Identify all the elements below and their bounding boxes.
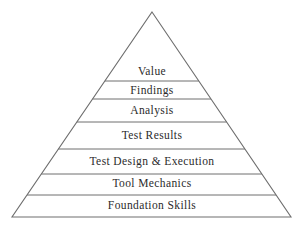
pyramid-outline-svg xyxy=(0,0,304,231)
triangle-outline xyxy=(12,12,291,217)
pyramid-diagram: Value Findings Analysis Test Results Tes… xyxy=(0,0,304,231)
